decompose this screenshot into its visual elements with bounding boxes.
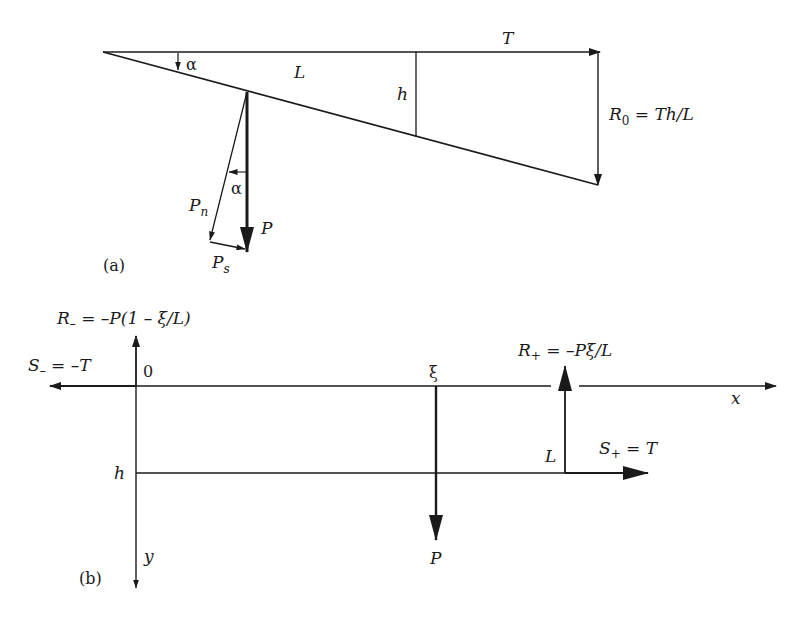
r-minus-label: R– = –P(1 – ξ/L) xyxy=(56,308,191,331)
normal-force-arrow xyxy=(210,92,247,240)
xi-label: ξ xyxy=(429,363,438,382)
diagram-canvas: α L h T R0 = Th/L P Pn Ps α (a) xyxy=(0,0,796,620)
r-plus-label: R+ = –Pξ/L xyxy=(517,340,612,363)
reaction-label: R0 = Th/L xyxy=(608,104,694,128)
normal-force-label: Pn xyxy=(188,195,208,219)
x-axis-label: x xyxy=(731,388,741,408)
alpha-force-label: α xyxy=(231,179,242,198)
load-label: P xyxy=(260,218,273,238)
origin-label: 0 xyxy=(143,362,153,381)
shear-force-label: Ps xyxy=(211,252,230,276)
y-axis-label: y xyxy=(143,546,154,566)
alpha-label: α xyxy=(186,55,197,74)
panel-a: α L h T R0 = Th/L P Pn Ps α (a) xyxy=(103,28,694,276)
shear-force-arrow xyxy=(210,242,245,249)
depth-label: h xyxy=(114,463,125,483)
height-label: h xyxy=(397,84,408,104)
s-plus-label: S+ = T xyxy=(599,438,659,461)
load-label-b: P xyxy=(429,548,442,568)
panel-b-caption: (b) xyxy=(79,569,102,588)
panel-b: R– = –P(1 – ξ/L) S– = –T 0 ξ P h R+ = –P… xyxy=(28,308,776,588)
s-minus-label: S– = –T xyxy=(28,355,92,378)
length-label: L xyxy=(293,62,305,82)
tension-label: T xyxy=(502,28,515,48)
diagram-svg: α L h T R0 = Th/L P Pn Ps α (a) xyxy=(0,0,796,620)
slanted-member xyxy=(103,52,598,185)
span-label: L xyxy=(544,446,556,466)
panel-a-caption: (a) xyxy=(103,256,125,275)
